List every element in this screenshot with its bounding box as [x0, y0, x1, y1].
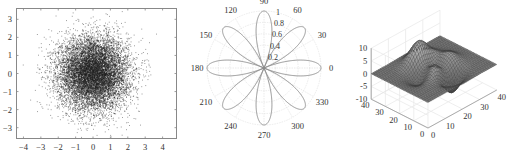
polar-plot: 0.20.40.60.81 03060901201501802102402703… [180, 0, 350, 155]
polar-rtick-label: 1 [276, 8, 280, 17]
surface-ytick-label: 40 [361, 100, 370, 110]
polar-radial-labels: 0.20.40.60.81 [268, 8, 284, 62]
scatter-xtick-label: 2 [126, 142, 130, 152]
scatter-ytick-label: 2 [8, 32, 12, 42]
scatter-ytick-label: 1 [8, 50, 12, 60]
scatter-xtick-label: 3 [143, 142, 147, 152]
scatter-xtick-label: −4 [19, 142, 29, 152]
surface-ytick-label: 0 [420, 129, 424, 139]
scatter-xtick-label: −3 [36, 142, 45, 152]
polar-rtick-label: 0.4 [270, 42, 280, 51]
polar-theta-label: 270 [258, 130, 271, 140]
surface-ytick-label: 30 [375, 107, 384, 117]
surface-plot: -10-50510010203040010203040 [350, 0, 525, 155]
scatter-xtick-label: −1 [71, 142, 80, 152]
polar-rtick-label: 0.8 [274, 19, 284, 28]
surface-ytick-label: 20 [389, 115, 398, 125]
polar-theta-label: 210 [200, 97, 213, 107]
scatter-plot-panel: −4−3−2−101234 −3−2−10123 [0, 0, 180, 155]
scatter-xtick-label: 1 [108, 142, 112, 152]
surface-xtick-label: 30 [480, 102, 489, 112]
polar-theta-label: 180 [191, 63, 204, 73]
scatter-xtick-label: −2 [54, 142, 63, 152]
surface-ztick-label: 10 [359, 43, 368, 53]
surface-ztick-label: 5 [363, 56, 367, 66]
scatter-plot: −4−3−2−101234 −3−2−10123 [0, 0, 180, 155]
scatter-ytick-label: −2 [3, 105, 12, 115]
surface-ytick-label: 10 [404, 122, 413, 132]
polar-plot-panel: 0.20.40.60.81 03060901201501802102402703… [180, 0, 350, 155]
polar-theta-label: 0 [329, 63, 333, 73]
scatter-xtick-label: 4 [160, 142, 165, 152]
polar-angle-labels: 0306090120150180210240270300330 [191, 0, 334, 140]
surface-mesh [371, 36, 497, 103]
polar-theta-label: 240 [224, 121, 237, 131]
surface-xtick-label: 40 [498, 92, 507, 102]
surface-ztick-label: 0 [363, 69, 367, 79]
polar-rtick-label: 0.2 [268, 53, 278, 62]
surface-xtick-label: 0 [431, 130, 435, 140]
polar-theta-label: 30 [318, 30, 327, 40]
polar-theta-label: 60 [293, 5, 302, 15]
scatter-ytick-label: 0 [8, 69, 12, 79]
polar-theta-label: 120 [224, 5, 237, 15]
scatter-xtick-label: 0 [91, 142, 95, 152]
polar-theta-label: 330 [316, 97, 329, 107]
scatter-ytick-label: 3 [8, 14, 12, 24]
polar-theta-label: 90 [260, 0, 269, 6]
polar-theta-label: 300 [291, 121, 304, 131]
polar-theta-label: 150 [200, 30, 213, 40]
surface-plot-panel: -10-50510010203040010203040 [350, 0, 525, 155]
surface-xtick-label: 10 [446, 121, 455, 131]
scatter-ytick-label: −1 [3, 87, 12, 97]
scatter-ytick-label: −3 [3, 123, 12, 133]
surface-ztick-label: -5 [360, 81, 367, 91]
rose-curve [207, 11, 321, 125]
surface-xtick-label: 20 [463, 111, 472, 121]
polar-rtick-label: 0.6 [272, 30, 282, 39]
